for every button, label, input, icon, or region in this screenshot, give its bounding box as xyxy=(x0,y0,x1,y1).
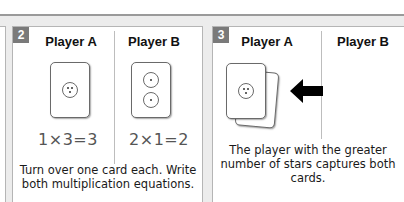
player-a-header: Player A xyxy=(31,34,111,49)
player-b-header: Player B xyxy=(321,34,404,49)
previous-panel-fragment xyxy=(0,26,6,202)
player-a-equation: 1×3=3 xyxy=(23,130,113,149)
step-2-caption: Turn over one card each. Write both mult… xyxy=(13,163,203,191)
player-b-card xyxy=(131,62,171,118)
one-star-icon xyxy=(143,72,159,88)
three-star-icon xyxy=(238,83,254,99)
player-b-header: Player B xyxy=(114,34,194,49)
left-arrow-icon xyxy=(290,79,324,103)
step-panel-3: 3 Player A Player B The player with the … xyxy=(212,26,404,202)
player-a-card xyxy=(50,62,90,118)
captured-card-front xyxy=(226,63,266,119)
player-a-header: Player A xyxy=(225,34,309,49)
step-3-caption: The player with the greater number of st… xyxy=(213,143,403,185)
step-number-badge: 2 xyxy=(13,27,29,43)
step-panel-2: 2 Player A Player B 1×3=3 2×1=2 Turn ove… xyxy=(12,26,203,202)
player-b-equation: 2×1=2 xyxy=(115,130,203,149)
top-margin xyxy=(0,0,404,14)
one-star-icon xyxy=(143,92,159,108)
three-star-icon xyxy=(62,82,78,98)
